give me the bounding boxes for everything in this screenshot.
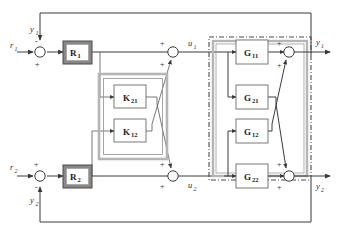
sign-y2-plus-top: + bbox=[277, 160, 282, 169]
label-u2-sub: 2 bbox=[194, 186, 197, 192]
block-k21-label: K bbox=[123, 93, 130, 103]
block-r2-subscript: 2 bbox=[78, 176, 81, 183]
sign-u2-plus-top: + bbox=[160, 160, 165, 169]
block-g11-label: G bbox=[244, 48, 251, 58]
block-diagram-figure: K 21 K 12 bbox=[0, 0, 347, 235]
sign-u1-plus-bottom: + bbox=[160, 60, 165, 69]
block-r2-label: R bbox=[70, 172, 77, 182]
block-r1-subscript: 1 bbox=[78, 52, 81, 59]
label-y1-feedback-sub: 1 bbox=[36, 30, 39, 36]
summing-junction-u1[interactable] bbox=[168, 47, 178, 57]
label-r2: r bbox=[10, 162, 14, 172]
label-y1-feedback: y bbox=[29, 24, 34, 34]
summing-junction-2[interactable] bbox=[35, 171, 45, 181]
block-g11[interactable]: G 11 bbox=[236, 40, 268, 64]
label-u2: u bbox=[188, 180, 192, 190]
block-g12[interactable]: G 12 bbox=[236, 119, 268, 143]
block-g21[interactable]: G 21 bbox=[236, 85, 268, 109]
sign-y1-plus-bottom: + bbox=[277, 61, 282, 70]
summing-junction-y1[interactable] bbox=[284, 47, 294, 57]
block-k21-subscript: 21 bbox=[131, 97, 138, 104]
sign-y1-plus-top: + bbox=[277, 39, 282, 48]
block-g12-subscript: 12 bbox=[252, 131, 259, 138]
label-y1-output: y bbox=[315, 37, 320, 47]
block-r2[interactable]: R 2 bbox=[63, 165, 92, 188]
block-g21-subscript: 21 bbox=[252, 97, 259, 104]
block-k12-subscript: 12 bbox=[131, 131, 138, 138]
label-r2-sub: 2 bbox=[15, 168, 18, 174]
block-r1[interactable]: R 1 bbox=[63, 41, 92, 64]
label-y1-output-sub: 1 bbox=[321, 43, 324, 49]
plant-wiring bbox=[224, 52, 330, 176]
block-g22-label: G bbox=[244, 172, 251, 182]
block-k21[interactable]: K 21 bbox=[114, 85, 146, 108]
block-g11-subscript: 11 bbox=[252, 52, 258, 59]
summing-junction-u2[interactable] bbox=[168, 171, 178, 181]
block-g12-label: G bbox=[244, 127, 251, 137]
summing-junction-y2[interactable] bbox=[284, 171, 294, 181]
block-r1-label: R bbox=[70, 48, 77, 58]
sign-sum1-minus: - bbox=[35, 37, 38, 46]
label-u1: u bbox=[188, 38, 192, 48]
label-u1-sub: 1 bbox=[194, 44, 197, 50]
sign-sum2-minus: - bbox=[35, 183, 38, 192]
label-r1-sub: 1 bbox=[15, 46, 18, 52]
block-k12[interactable]: K 12 bbox=[114, 119, 146, 142]
label-y2-feedback: y bbox=[29, 195, 34, 205]
sign-y2-plus-bottom: + bbox=[277, 183, 282, 192]
diagram-canvas: K 21 K 12 bbox=[0, 0, 347, 235]
summing-junction-1[interactable] bbox=[35, 47, 45, 57]
label-y2-output: y bbox=[315, 181, 320, 191]
sign-sum2-plus: + bbox=[34, 160, 39, 169]
block-k12-label: K bbox=[123, 127, 130, 137]
label-y2-output-sub: 2 bbox=[321, 187, 324, 193]
block-g22-subscript: 22 bbox=[252, 176, 259, 183]
label-r1: r bbox=[10, 40, 14, 50]
block-g22[interactable]: G 22 bbox=[236, 164, 268, 188]
sign-u1-plus-top: + bbox=[160, 39, 165, 48]
sign-sum1-plus: + bbox=[35, 60, 40, 69]
sign-u2-plus-bottom: + bbox=[160, 182, 165, 191]
block-g21-label: G bbox=[244, 93, 251, 103]
label-y2-feedback-sub: 2 bbox=[36, 201, 39, 207]
